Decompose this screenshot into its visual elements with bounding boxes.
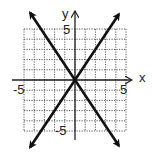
y-axis-label: y [62, 6, 69, 21]
y-max-label: 5 [63, 22, 70, 37]
x-min-label: -5 [13, 82, 25, 97]
coordinate-plane: y 5 -5 -5 5 x [0, 0, 154, 152]
y-min-label: -5 [55, 123, 67, 138]
x-axis-label: x [139, 70, 146, 85]
x-max-label: 5 [120, 82, 127, 97]
